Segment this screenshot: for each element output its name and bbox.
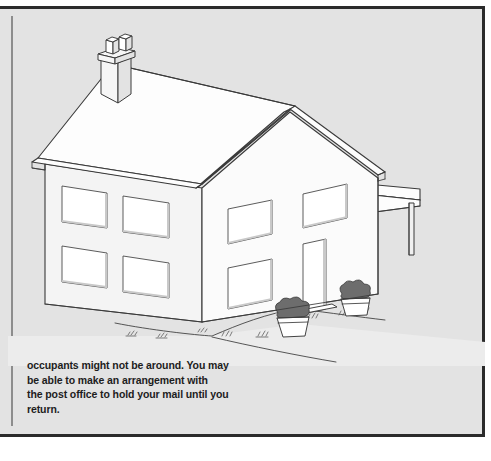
front-window-lower xyxy=(228,259,272,309)
side-wall xyxy=(45,164,202,322)
house-illustration: .ln { stroke:#3a3a3a; stroke-width:1.1; … xyxy=(0,6,485,366)
plant-pot-left xyxy=(277,317,309,337)
caption-line-3: the post office to hold your mail until … xyxy=(27,387,279,402)
chimney xyxy=(98,34,135,103)
plant-pot-right xyxy=(341,298,370,316)
illustration-page: .ln { stroke:#3a3a3a; stroke-width:1.1; … xyxy=(0,0,491,461)
caption-line-1: occupants might not be around. You may xyxy=(27,358,279,373)
caption-text: occupants might not be around. You may b… xyxy=(27,358,279,416)
caption-line-4: return. xyxy=(27,402,279,417)
caption-line-2: be able to make an arrangement with xyxy=(27,373,279,388)
